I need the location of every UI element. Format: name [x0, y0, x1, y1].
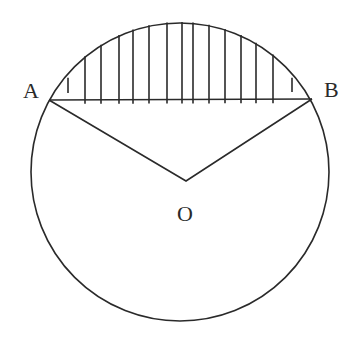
label-b: B	[324, 77, 339, 102]
circle-o	[31, 23, 329, 321]
radii-oa-ob	[49, 99, 312, 181]
segment-hatching	[68, 22, 292, 104]
label-a: A	[23, 78, 39, 103]
label-o: O	[177, 201, 193, 226]
circle-segment-diagram: A B O	[0, 0, 353, 338]
chord-ab	[49, 99, 312, 100]
